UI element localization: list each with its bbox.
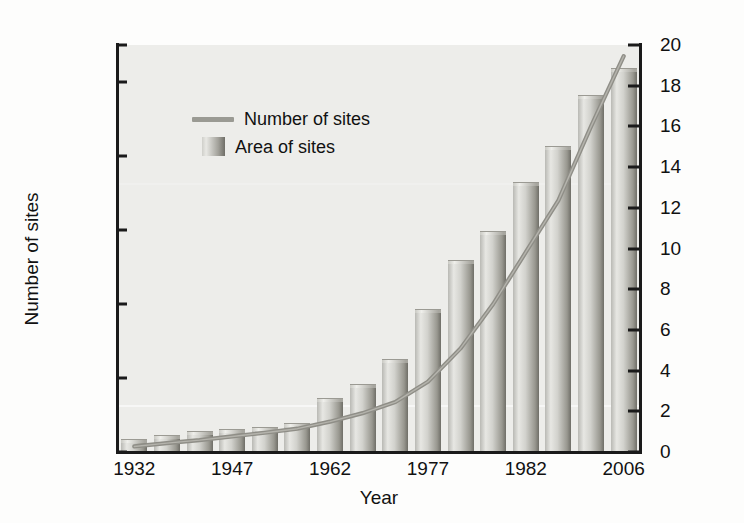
legend-label-area-of-sites: Area of sites: [235, 138, 335, 156]
y-right-tick-label: 0: [660, 441, 671, 463]
legend-line-marker-icon: [192, 117, 234, 122]
y-right-tickmark: [628, 206, 641, 209]
y-right-tickmark: [628, 166, 641, 169]
y-left-tickmark: [116, 303, 127, 306]
x-tick-label-1977: 1977: [407, 458, 449, 480]
x-tick-label-1962: 1962: [309, 458, 351, 480]
y-axis-right-ticks: 02468101214161820: [0, 0, 744, 523]
y-right-tick-label: 18: [660, 75, 681, 97]
y-left-tickmark: [116, 155, 127, 158]
legend-label-number-of-sites: Number of sites: [244, 110, 370, 128]
chart-legend: Number of sites Area of sites: [192, 110, 370, 165]
y-right-tickmark: [628, 369, 641, 372]
y-right-tickmark: [628, 44, 641, 47]
y-right-tickmark: [628, 451, 641, 454]
chart-figure: 020,00040,00060,00080,000100,000110,000 …: [0, 0, 744, 523]
y-right-tickmark: [628, 328, 641, 331]
y-axis-left-title: Number of sites: [21, 159, 43, 359]
x-axis-title: Year: [118, 487, 640, 509]
y-left-tickmark: [116, 229, 127, 232]
y-right-tick-label: 8: [660, 278, 671, 300]
legend-item-number-of-sites: Number of sites: [192, 110, 370, 128]
y-right-tick-label: 4: [660, 360, 671, 382]
y-right-tick-label: 10: [660, 238, 681, 260]
x-tick-label-1982: 1982: [505, 458, 547, 480]
y-right-tick-label: 16: [660, 115, 681, 137]
y-left-tickmark: [116, 451, 127, 454]
y-right-tick-label: 2: [660, 400, 671, 422]
y-left-tickmark: [116, 44, 127, 47]
y-right-tickmark: [628, 288, 641, 291]
y-right-tickmark: [628, 247, 641, 250]
y-right-tick-label: 20: [660, 34, 681, 56]
x-tick-label-1932: 1932: [113, 458, 155, 480]
y-right-tick-label: 6: [660, 319, 671, 341]
legend-bar-marker-icon: [202, 137, 225, 156]
x-tick-label-2006: 2006: [603, 458, 645, 480]
x-tick-label-1947: 1947: [211, 458, 253, 480]
y-left-tickmark: [116, 377, 127, 380]
y-left-tickmark: [116, 81, 127, 84]
y-right-tick-label: 12: [660, 197, 681, 219]
legend-item-area-of-sites: Area of sites: [192, 137, 370, 156]
y-right-tickmark: [628, 125, 641, 128]
y-right-tickmark: [628, 84, 641, 87]
y-right-tick-label: 14: [660, 156, 681, 178]
y-right-tickmark: [628, 410, 641, 413]
